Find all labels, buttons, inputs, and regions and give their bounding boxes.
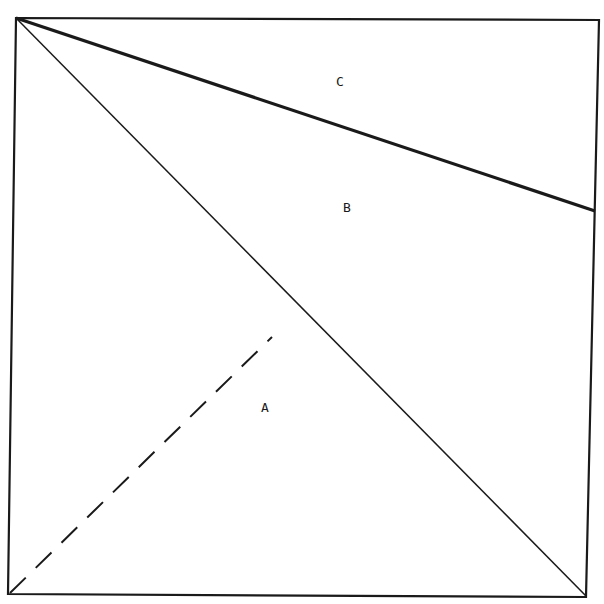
thick-partition-line [16, 18, 595, 211]
diagonal-line [16, 18, 586, 596]
diagram-canvas: C B A [0, 0, 604, 604]
region-label-b: B [343, 200, 351, 215]
region-label-a: A [261, 400, 269, 415]
square-outline [8, 18, 599, 597]
region-label-c: C [336, 74, 344, 89]
dashed-line [10, 337, 272, 593]
